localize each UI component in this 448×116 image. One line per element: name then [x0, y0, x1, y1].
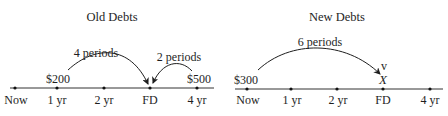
tick-label: FD [142, 93, 158, 107]
caret-mark: v [381, 59, 387, 73]
tick-label: 2 yr [329, 93, 348, 107]
panel-title: New Debts [309, 10, 365, 24]
tick-dot-now [245, 87, 248, 90]
amount-label: $200 [46, 72, 70, 86]
new-debts-panel: New Debts Now 1 yr 2 yr FD 4 yr $300 X v… [234, 10, 443, 107]
tick-dot-fd [148, 86, 151, 89]
tick-dot-now [13, 86, 16, 89]
tick-label: 4 yr [188, 93, 207, 107]
tick-dot-4yr [428, 87, 431, 90]
tick-label: 1 yr [48, 93, 67, 107]
amount-label: $300 [234, 73, 258, 87]
arc-label: 4 periods [74, 46, 119, 60]
tick-label: 2 yr [95, 93, 114, 107]
tick-label: 1 yr [283, 93, 302, 107]
tick-dot-1yr [289, 87, 292, 90]
arrow-arc [258, 48, 380, 74]
time-diagrams: Old Debts Now 1 yr 2 yr FD 4 yr $200 $50… [0, 0, 448, 116]
panel-title: Old Debts [86, 10, 137, 24]
tick-label: FD [375, 93, 391, 107]
tick-label: 4 yr [421, 93, 440, 107]
tick-dot-4yr [195, 86, 198, 89]
tick-dot-1yr [55, 86, 58, 89]
tick-label: Now [236, 93, 260, 107]
old-debts-panel: Old Debts Now 1 yr 2 yr FD 4 yr $200 $50… [4, 10, 214, 107]
tick-label: Now [4, 93, 28, 107]
tick-dot-2yr [102, 86, 105, 89]
tick-dot-2yr [335, 87, 338, 90]
arc-label: 6 periods [298, 35, 343, 49]
arc-label: 2 periods [157, 50, 202, 64]
tick-dot-fd [381, 87, 384, 90]
amount-label: $500 [187, 72, 211, 86]
unknown-amount-x: X [378, 72, 388, 87]
